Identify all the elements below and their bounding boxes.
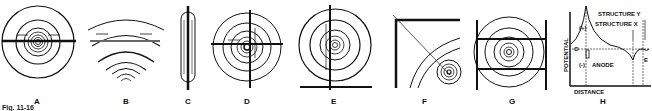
panel-h-graph	[570, 6, 651, 86]
plus-label: (+)	[579, 25, 587, 31]
panel-label-h: H	[600, 97, 606, 106]
minus-label: (-)	[579, 62, 585, 68]
zero-label: O	[574, 46, 579, 52]
panel-label-g: G	[509, 97, 515, 106]
panel-label-d: D	[244, 97, 250, 106]
e-label: E	[644, 57, 648, 63]
panel-a-diagram	[2, 6, 76, 78]
y-axis-label: POTENTIAL	[563, 38, 569, 72]
panel-label-f: F	[422, 97, 427, 106]
panel-g-diagram	[474, 17, 547, 90]
panel-f-diagram	[393, 15, 461, 88]
panel-c-diagram	[181, 6, 195, 90]
figure-caption: Fig. 11-16	[2, 104, 34, 111]
panel-label-a: A	[34, 97, 40, 106]
panel-label-c: C	[185, 97, 191, 106]
panel-b-diagram	[88, 20, 164, 81]
figure-canvas: (+) O (-) ANODE STRUCTURE Y STRUCTURE X …	[0, 0, 652, 111]
panel-d-diagram	[211, 10, 283, 88]
panel-label-b: B	[123, 97, 129, 106]
panel-label-e: E	[331, 97, 337, 106]
panel-e-diagram	[299, 5, 372, 90]
x-axis-label: DISTANCE	[574, 89, 604, 95]
structure-x-label: STRUCTURE X	[595, 21, 638, 27]
anode-label: ANODE	[592, 62, 614, 68]
structure-y-label: STRUCTURE Y	[598, 11, 641, 17]
